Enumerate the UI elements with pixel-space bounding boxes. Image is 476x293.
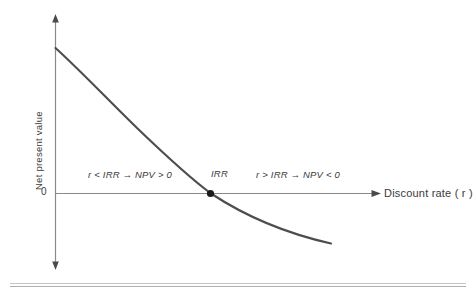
arrow-right-icon: → [291, 169, 301, 180]
irr-point-marker [207, 190, 214, 197]
x-axis-arrow-right-icon [372, 190, 382, 197]
annotation-left-condition: r < IRR [88, 169, 120, 180]
annotation-right-result: NPV < 0 [303, 169, 340, 180]
y-axis-zero-tick-label: 0 [41, 187, 47, 197]
annotation-left-region: r < IRR → NPV > 0 [88, 170, 172, 180]
npv-irr-diagram [0, 0, 476, 293]
x-axis-label: Discount rate ( r ) [384, 188, 473, 199]
y-axis-arrow-up-icon [52, 14, 59, 23]
y-axis-arrow-down-icon [52, 262, 59, 271]
y-axis-group [52, 14, 59, 270]
irr-point-label: IRR [211, 169, 228, 179]
annotation-right-condition: r > IRR [256, 169, 288, 180]
annotation-right-region: r > IRR → NPV < 0 [256, 170, 340, 180]
arrow-right-icon: → [123, 169, 133, 180]
x-axis-group [56, 190, 382, 197]
y-axis-label: Net present value [34, 111, 44, 190]
figure-canvas: Net present value 0 Discount rate ( r ) … [0, 0, 476, 293]
annotation-left-result: NPV > 0 [135, 169, 172, 180]
npv-curve [56, 48, 332, 244]
footer-rules [10, 284, 466, 287]
